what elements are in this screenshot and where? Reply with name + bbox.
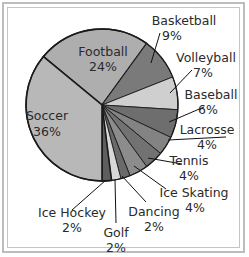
pct-dancing: 2% [144,219,164,234]
label-dancing: Dancing [128,204,179,219]
label-basketball: Basketball [152,13,217,28]
label-volleyball: Volleyball [176,50,236,65]
pct-ice-hockey: 2% [62,220,82,235]
pct-basketball: 9% [162,28,182,43]
label-baseball: Baseball [185,87,238,102]
pct-golf: 2% [106,240,126,255]
pie-chart: Football 24% Basketball 9% Volleyball 7%… [0,0,249,257]
label-football: Football [78,44,127,59]
label-tennis: Tennis [168,153,208,168]
label-ice-skating: Ice Skating [159,185,228,200]
pct-volleyball: 7% [193,65,213,80]
pct-tennis: 4% [179,168,199,183]
pct-ice-skating: 4% [185,200,205,215]
pct-baseball: 6% [198,102,218,117]
pct-football: 24% [89,59,117,74]
label-lacrosse: Lacrosse [180,122,235,137]
pct-lacrosse: 4% [197,137,217,152]
label-ice-hockey: Ice Hockey [38,205,107,220]
label-golf: Golf [103,225,129,240]
label-soccer: Soccer [26,108,69,123]
pct-soccer: 36% [33,124,61,139]
